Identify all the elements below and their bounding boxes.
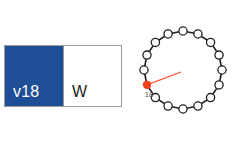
dial-node bbox=[179, 27, 187, 35]
dial-node bbox=[143, 51, 151, 59]
dial-node-active bbox=[143, 81, 150, 88]
swatch-right-white: W bbox=[63, 46, 121, 106]
dial-diagram-svg: 18 bbox=[133, 22, 233, 132]
dial-node bbox=[194, 30, 202, 38]
dial-panel: 18 bbox=[133, 22, 233, 132]
dial-active-label: 18 bbox=[145, 90, 153, 99]
dial-node bbox=[164, 102, 172, 110]
dial-node bbox=[194, 102, 202, 110]
dial-node bbox=[206, 93, 214, 101]
dial-node bbox=[151, 38, 159, 46]
dial-pointer bbox=[147, 72, 181, 85]
dial-node bbox=[140, 66, 148, 74]
diagram-canvas: v18 W 18 bbox=[0, 0, 235, 151]
dial-node bbox=[179, 105, 187, 113]
dial-node bbox=[215, 51, 223, 59]
dial-node bbox=[206, 38, 214, 46]
color-swatch-panel: v18 W bbox=[4, 45, 122, 107]
swatch-left-label: v18 bbox=[5, 84, 39, 106]
dial-node-group bbox=[140, 27, 226, 113]
dial-node bbox=[215, 81, 223, 89]
swatch-right-label: W bbox=[64, 84, 87, 106]
dial-node bbox=[218, 66, 226, 74]
dial-node bbox=[164, 30, 172, 38]
swatch-left-blue: v18 bbox=[5, 46, 63, 106]
dial-pointer-line bbox=[147, 72, 181, 85]
